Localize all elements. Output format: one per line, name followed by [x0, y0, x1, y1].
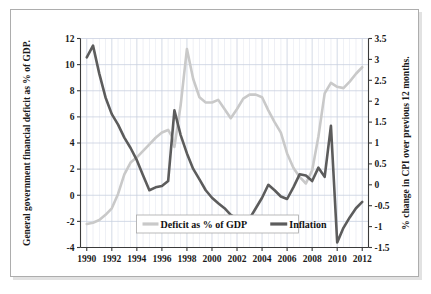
left-axis-tick-label: -2 — [67, 217, 75, 227]
left-axis-tick-label: 10 — [65, 60, 75, 70]
left-axis-tick-label: 2 — [70, 164, 75, 174]
left-axis-title: General government financial deficit as … — [22, 40, 32, 246]
right-axis-tick-label: 2.5 — [375, 76, 387, 86]
right-axis-tick-label: -1.5 — [375, 243, 390, 253]
x-axis-tick-label: 2010 — [328, 254, 347, 264]
left-axis-tick-label: 4 — [70, 138, 75, 148]
x-axis-tick-label: 2000 — [202, 254, 221, 264]
left-axis-tick-label: 8 — [70, 86, 75, 96]
right-axis-tick-label: -0.5 — [375, 201, 390, 211]
x-axis-tick-label: 2004 — [253, 254, 272, 264]
x-axis-tick-label: 1992 — [102, 254, 121, 264]
right-axis-tick-label: -1 — [375, 222, 383, 232]
left-axis-tick-label: 6 — [70, 112, 75, 122]
x-axis-tick-label: 2002 — [228, 254, 247, 264]
right-axis-title: % change in CPI over previous 12 months. — [401, 56, 411, 229]
right-axis-tick-label: 0 — [375, 180, 380, 190]
dual-axis-line-chart: -4-2024681012-1.5-1-0.500.511.522.533.51… — [0, 0, 431, 294]
right-axis-tick-label: 3.5 — [375, 34, 387, 44]
right-axis-tick-label: 2 — [375, 97, 380, 107]
left-axis-tick-label: 12 — [65, 34, 75, 44]
x-axis-tick-label: 2006 — [278, 254, 297, 264]
right-axis-tick-label: 0.5 — [375, 159, 387, 169]
legend-label-deficit[interactable]: Deficit as % of GDP — [161, 219, 248, 230]
right-axis-tick-label: 3 — [375, 55, 380, 65]
x-axis-tick-label: 1998 — [177, 254, 196, 264]
chart-legend[interactable]: Deficit as % of GDPInflation — [137, 215, 327, 233]
right-axis-tick-label: 1 — [375, 138, 380, 148]
chart-figure: -4-2024681012-1.5-1-0.500.511.522.533.51… — [0, 0, 431, 294]
x-axis-tick-label: 1996 — [152, 254, 171, 264]
left-axis-tick-label: 0 — [70, 191, 75, 201]
x-axis-tick-label: 2008 — [303, 254, 322, 264]
x-axis-tick-label: 1990 — [77, 254, 96, 264]
x-axis-tick-label: 2012 — [353, 254, 372, 264]
x-axis-tick-label: 1994 — [127, 254, 146, 264]
legend-label-inflation[interactable]: Inflation — [289, 219, 327, 230]
right-axis-tick-label: 1.5 — [375, 117, 387, 127]
left-axis-tick-label: -4 — [67, 243, 75, 253]
